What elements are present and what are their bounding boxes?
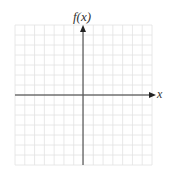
x-axis-arrow-icon bbox=[149, 92, 156, 98]
x-axis-label: x bbox=[157, 87, 162, 102]
y-axis-arrow-icon bbox=[80, 25, 86, 32]
y-axis-label: f(x) bbox=[73, 9, 91, 25]
coordinate-grid bbox=[0, 0, 169, 179]
